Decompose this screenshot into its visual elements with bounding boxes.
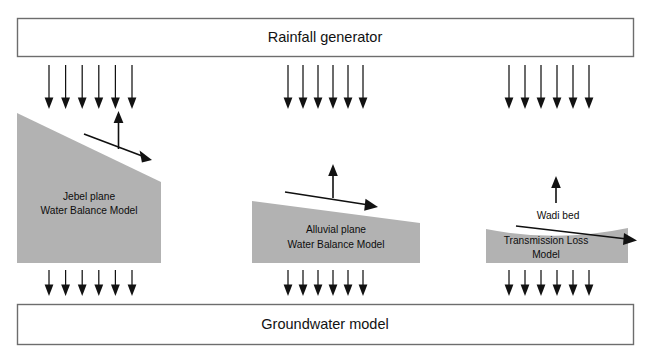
recharge-arrow [505,270,514,296]
jebel-plane-label-line2: Water Balance Model [40,205,137,216]
alluvial-plane-terrain: Alluvial plane Water Balance Model [252,201,420,263]
wadi-evaporation-arrow [551,176,561,203]
rain-arrow [359,65,368,109]
recharge-arrow [569,270,578,296]
groundwater-model-box: Groundwater model [18,305,634,345]
rain-arrow [344,65,353,109]
rain-arrow [505,65,514,109]
recharge-arrows-wadi [505,270,594,296]
rain-arrow [45,65,54,109]
transmission-loss-label-line1: Transmission Loss [504,235,589,246]
recharge-arrow [344,270,353,296]
recharge-arrow [359,270,368,296]
recharge-arrow [329,270,338,296]
diagram-canvas: Rainfall generator [0,0,650,358]
rain-arrow [537,65,546,109]
recharge-arrow [94,270,103,296]
rain-arrows-wadi [505,65,594,109]
rain-arrow [284,65,293,109]
rain-arrow [553,65,562,109]
recharge-arrow [521,270,530,296]
recharge-arrow [537,270,546,296]
recharge-arrow [284,270,293,296]
recharge-arrows-alluvial [284,270,368,296]
recharge-arrow [78,270,87,296]
rain-arrows-jebel [45,65,137,109]
recharge-arrow [314,270,323,296]
rain-arrow [569,65,578,109]
recharge-arrow [128,270,137,296]
rain-arrows-alluvial [284,65,368,109]
wadi-bed-label: Wadi bed [537,210,580,221]
rain-arrow [61,65,70,109]
alluvial-evaporation-arrow [328,164,338,198]
rain-arrow [585,65,594,109]
groundwater-model-label: Groundwater model [261,316,388,332]
rain-arrow [521,65,530,109]
alluvial-plane-label-line2: Water Balance Model [287,239,384,250]
recharge-arrows-jebel [45,270,137,296]
rain-arrow [128,65,137,109]
rain-arrow [78,65,87,109]
recharge-arrow [299,270,308,296]
rain-arrow [314,65,323,109]
transmission-loss-label-line2: Model [532,249,560,260]
rain-arrow [329,65,338,109]
jebel-evaporation-arrow [114,111,124,149]
rainfall-generator-box: Rainfall generator [18,19,634,57]
rain-arrow [111,65,120,109]
rainfall-generator-label: Rainfall generator [268,29,383,45]
rain-arrow [299,65,308,109]
rainfall-runoff-model-diagram: Rainfall generator [0,0,650,358]
recharge-arrow [45,270,54,296]
recharge-arrow [553,270,562,296]
recharge-arrow [585,270,594,296]
alluvial-plane-label-line1: Alluvial plane [306,224,366,235]
recharge-arrow [111,270,120,296]
rain-arrow [94,65,103,109]
recharge-arrow [61,270,70,296]
jebel-plane-label-line1: Jebel plane [63,191,115,202]
